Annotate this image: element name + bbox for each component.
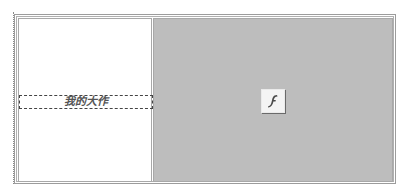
text-box[interactable]: 我的大作 xyxy=(19,95,153,109)
left-cell[interactable]: 我的大作 xyxy=(18,18,152,182)
flash-icon[interactable] xyxy=(261,89,285,113)
layout-table: 我的大作 xyxy=(14,14,396,184)
flash-placeholder-cell[interactable] xyxy=(153,18,393,182)
